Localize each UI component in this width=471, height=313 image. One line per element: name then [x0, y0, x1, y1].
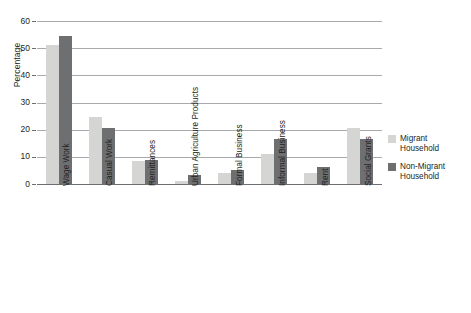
- bar-group: [304, 21, 330, 184]
- x-axis-tick-label: Social Grants: [364, 136, 373, 186]
- x-axis-tick-label: Casual Work: [105, 139, 114, 186]
- x-axis-tick-label: Formal Business: [235, 124, 244, 186]
- gridline: [37, 184, 382, 185]
- bar-migrant-household: [89, 117, 102, 184]
- bar-migrant-household: [261, 154, 274, 184]
- bar-migrant-household: [132, 161, 145, 184]
- y-axis-tick-mark: [32, 75, 36, 76]
- y-axis-tick-label: 10: [0, 152, 30, 161]
- bar-migrant-household: [175, 181, 188, 184]
- y-axis-tick-label: 30: [0, 98, 30, 107]
- x-axis-tick-label: Informal Business: [278, 120, 287, 186]
- legend-label: Migrant Household: [400, 134, 466, 155]
- x-axis-tick-label: Rent: [321, 169, 330, 187]
- bar-migrant-household: [46, 45, 59, 184]
- x-axis-tick-label: Wage Work: [62, 143, 71, 186]
- x-axis-tick-label: Urban Agriculture Products: [191, 87, 200, 186]
- y-axis-tick-label: 0: [0, 180, 30, 189]
- legend-swatch-non-migrant-icon: [388, 163, 396, 171]
- bar-migrant-household: [347, 128, 360, 184]
- x-axis-tick-labels: Wage WorkCasual WorkRemittancesUrban Agr…: [37, 186, 382, 311]
- x-axis-tick-label: Remittances: [148, 140, 157, 186]
- y-axis-tick-label: 60: [0, 17, 30, 26]
- y-axis-tick-mark: [32, 48, 36, 49]
- y-axis-tick-mark: [32, 184, 36, 185]
- bar-migrant-household: [304, 173, 317, 184]
- y-axis-tick-label: 20: [0, 125, 30, 134]
- legend-swatch-migrant-icon: [388, 135, 396, 143]
- plot-area: [37, 21, 382, 184]
- bar-chart: Percentage 6050403020100 Wage WorkCasual…: [0, 0, 471, 313]
- y-axis-tick-label: 40: [0, 71, 30, 80]
- y-axis-tick-mark: [32, 21, 36, 22]
- y-axis-tick-label: 50: [0, 44, 30, 53]
- legend-item: Migrant Household: [388, 134, 471, 155]
- legend-label: Non-Migrant Household: [400, 162, 466, 183]
- legend-item: Non-Migrant Household: [388, 162, 471, 183]
- y-axis-tick-mark: [32, 103, 36, 104]
- y-axis-tick-labels: 6050403020100: [0, 21, 30, 184]
- y-axis-tick-mark: [32, 130, 36, 131]
- y-axis-tick-mark: [32, 157, 36, 158]
- chart-legend: Migrant HouseholdNon-Migrant Household: [388, 134, 471, 189]
- bar-migrant-household: [218, 173, 231, 184]
